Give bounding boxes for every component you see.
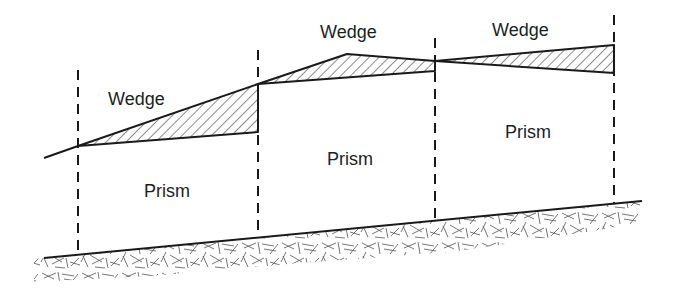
approach-line <box>44 146 78 158</box>
prism-2-label: Prism <box>327 149 373 169</box>
wedge-2-shape <box>258 54 435 84</box>
ground-soil-texture <box>34 201 642 282</box>
wedge-3-label: Wedge <box>492 20 549 40</box>
wedge-2-label: Wedge <box>320 22 377 42</box>
prismoidal-diagram: Wedge Wedge Wedge Prism Prism Prism <box>0 0 675 293</box>
wedge-1-shape <box>78 84 258 146</box>
wedge-1-label: Wedge <box>108 89 165 109</box>
prism-3-label: Prism <box>505 122 551 142</box>
wedge-3-shape <box>435 45 614 73</box>
prism-1-label: Prism <box>144 181 190 201</box>
